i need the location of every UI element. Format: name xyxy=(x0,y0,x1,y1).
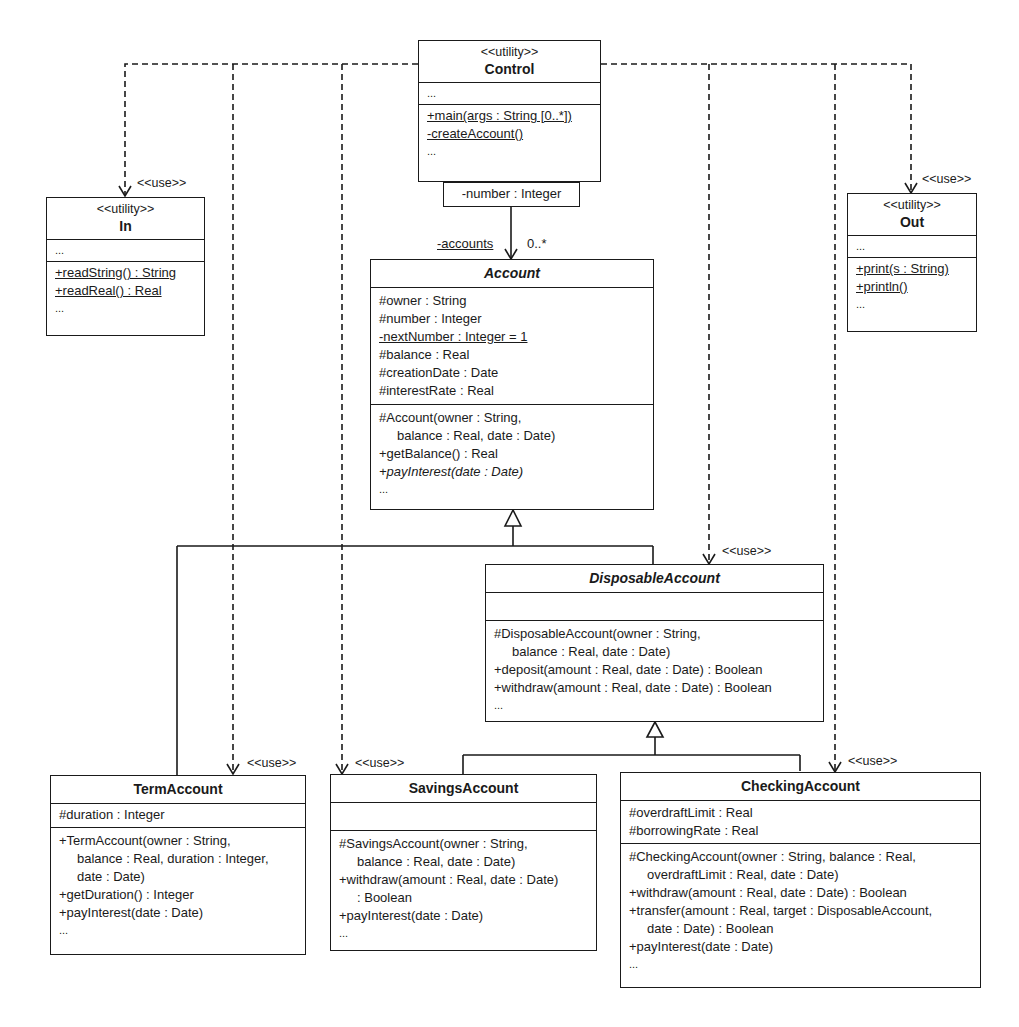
stereotype: <<utility>> xyxy=(852,197,972,213)
operation-constructor-cont: balance : Real, date : Date) xyxy=(494,643,815,661)
role-accounts: -accounts xyxy=(437,236,493,251)
operations-section: #SavingsAccount(owner : String, balance … xyxy=(331,830,596,944)
attributes-section xyxy=(331,803,596,830)
operation-payinterest: +payInterest(date : Date) xyxy=(379,463,645,481)
class-in[interactable]: <<utility>> In ... +readString() : Strin… xyxy=(46,197,205,336)
operation-ellipsis: ... xyxy=(339,925,588,941)
use-label-term: <<use>> xyxy=(247,756,296,770)
use-label-disposable: <<use>> xyxy=(722,544,771,558)
class-disposableaccount[interactable]: DisposableAccount #DisposableAccount(own… xyxy=(485,564,824,722)
qualifier-number: -number : Integer xyxy=(443,182,580,207)
operations-section: +TermAccount(owner : String, balance : R… xyxy=(51,827,305,941)
operation-payinterest: +payInterest(date : Date) xyxy=(339,907,588,925)
operation-constructor: +TermAccount(owner : String, xyxy=(59,832,297,850)
use-label-out: <<use>> xyxy=(922,172,971,186)
operation-withdraw: +withdraw(amount : Real, date : Date) : … xyxy=(629,884,972,902)
class-account[interactable]: Account #owner : String #number : Intege… xyxy=(370,259,654,510)
association-control-account xyxy=(505,206,517,259)
attribute: ... xyxy=(427,85,592,101)
attributes-section: #owner : String #number : Integer -nextN… xyxy=(371,288,653,404)
class-name: Account xyxy=(375,264,649,283)
attribute-borrowingrate: #borrowingRate : Real xyxy=(629,822,972,840)
use-label-checking: <<use>> xyxy=(848,754,897,768)
generalization-disposable xyxy=(463,722,800,775)
attributes-section: ... xyxy=(419,83,600,104)
attribute: ... xyxy=(856,238,968,254)
class-control[interactable]: <<utility>> Control ... +main(args : Str… xyxy=(418,40,601,182)
operation-constructor: #CheckingAccount(owner : String, balance… xyxy=(629,848,972,866)
operation-transfer: +transfer(amount : Real, target : Dispos… xyxy=(629,902,972,920)
class-savingsaccount[interactable]: SavingsAccount #SavingsAccount(owner : S… xyxy=(330,774,597,951)
operations-section: #CheckingAccount(owner : String, balance… xyxy=(621,843,980,975)
operation-constructor-cont: balance : Real, duration : Integer, xyxy=(59,850,297,868)
operation-constructor-cont: overdraftLimit : Real, date : Date) xyxy=(629,866,972,884)
operation-println: +println() xyxy=(856,278,968,296)
operation-readreal: +readReal() : Real xyxy=(55,282,196,300)
class-name: In xyxy=(51,217,200,236)
operations-section: #Account(owner : String, balance : Real,… xyxy=(371,404,653,500)
attribute-number: #number : Integer xyxy=(379,310,645,328)
class-name: CheckingAccount xyxy=(625,777,976,796)
operation-constructor-cont: balance : Real, date : Date) xyxy=(379,427,645,445)
attributes-section: #duration : Integer xyxy=(51,804,305,827)
class-checkingaccount[interactable]: CheckingAccount #overdraftLimit : Real #… xyxy=(620,772,981,988)
operation-getbalance: +getBalance() : Real xyxy=(379,445,645,463)
class-name: Out xyxy=(852,213,972,232)
operation-constructor-cont: balance : Real, date : Date) xyxy=(339,853,588,871)
operations-section: #DisposableAccount(owner : String, balan… xyxy=(486,620,823,716)
class-name: Control xyxy=(423,60,596,79)
operations-section: +main(args : String [0..*]) -createAccou… xyxy=(419,104,600,162)
operation-print: +print(s : String) xyxy=(856,260,968,278)
attributes-section: ... xyxy=(848,236,976,257)
operation-readstring: +readString() : String xyxy=(55,264,196,282)
operation-ellipsis: ... xyxy=(629,956,972,972)
class-name: TermAccount xyxy=(55,780,301,799)
operation-createaccount: -createAccount() xyxy=(427,125,592,143)
operation-ellipsis: ... xyxy=(494,697,815,713)
operations-section: +print(s : String) +println() ... xyxy=(848,257,976,315)
stereotype: <<utility>> xyxy=(51,201,200,217)
use-label-in: <<use>> xyxy=(137,176,186,190)
operation-ellipsis: ... xyxy=(59,922,297,938)
operation-transfer-cont: date : Date) : Boolean xyxy=(629,920,972,938)
operation-withdraw: +withdraw(amount : Real, date : Date) xyxy=(339,871,588,889)
operation-deposit: +deposit(amount : Real, date : Date) : B… xyxy=(494,661,815,679)
operation-constructor-cont2: date : Date) xyxy=(59,868,297,886)
operation-constructor: #DisposableAccount(owner : String, xyxy=(494,625,815,643)
attribute-interestrate: #interestRate : Real xyxy=(379,382,645,400)
class-name: DisposableAccount xyxy=(490,569,819,588)
attribute-duration: #duration : Integer xyxy=(59,806,297,824)
operation-payinterest: +payInterest(date : Date) xyxy=(59,904,297,922)
class-name: SavingsAccount xyxy=(335,779,592,798)
operation-withdraw: +withdraw(amount : Real, date : Date) : … xyxy=(494,679,815,697)
class-out[interactable]: <<utility>> Out ... +print(s : String) +… xyxy=(847,193,977,332)
operation-payinterest: +payInterest(date : Date) xyxy=(629,938,972,956)
operation-ellipsis: ... xyxy=(856,296,968,312)
operation-ellipsis: ... xyxy=(55,300,196,316)
operation-main: +main(args : String [0..*]) xyxy=(427,107,592,125)
operation-constructor: #Account(owner : String, xyxy=(379,409,645,427)
attribute: ... xyxy=(55,242,196,258)
attribute-creationdate: #creationDate : Date xyxy=(379,364,645,382)
stereotype: <<utility>> xyxy=(423,44,596,60)
operation-ellipsis: ... xyxy=(379,481,645,497)
attribute-balance: #balance : Real xyxy=(379,346,645,364)
multiplicity: 0..* xyxy=(527,236,547,251)
attributes-section: ... xyxy=(47,240,204,261)
class-termaccount[interactable]: TermAccount #duration : Integer +TermAcc… xyxy=(50,775,306,955)
operations-section: +readString() : String +readReal() : Rea… xyxy=(47,261,204,319)
dep-control-out xyxy=(601,64,911,193)
operation-ellipsis: ... xyxy=(427,143,592,159)
operation-withdraw-cont: : Boolean xyxy=(339,889,588,907)
attribute-overdraftlimit: #overdraftLimit : Real xyxy=(629,804,972,822)
attributes-section xyxy=(486,593,823,620)
attribute-nextnumber: -nextNumber : Integer = 1 xyxy=(379,328,645,346)
attributes-section: #overdraftLimit : Real #borrowingRate : … xyxy=(621,801,980,843)
operation-getduration: +getDuration() : Integer xyxy=(59,886,297,904)
use-label-savings: <<use>> xyxy=(355,756,404,770)
operation-constructor: #SavingsAccount(owner : String, xyxy=(339,835,588,853)
attribute-owner: #owner : String xyxy=(379,292,645,310)
